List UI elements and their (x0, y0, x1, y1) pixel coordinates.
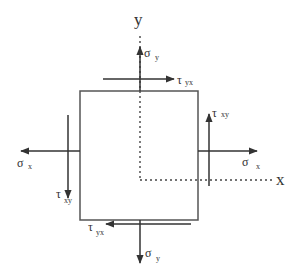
sigma-x-left-symbol: σ (17, 156, 24, 170)
tau-xy-right-symbol: τ (212, 106, 217, 120)
tau-yx-bottom-subscript: yx (96, 228, 104, 237)
sigma-x-right-symbol: σ (242, 155, 249, 169)
sigma-y-bottom-symbol: σ (145, 246, 152, 260)
sigma-y-top-subscript: y (155, 53, 159, 62)
tau-xy-left-symbol: τ (56, 187, 61, 201)
tau-yx-top-symbol: τ (177, 73, 182, 87)
sigma-x-right-subscript: x (256, 162, 260, 171)
stress-element-diagram: y x σ y τ yx σ x τ xy τ xy σ x τ yx σ y (0, 0, 299, 277)
y-axis-label: y (134, 10, 143, 29)
stress-element-square (80, 91, 198, 220)
sigma-x-left-subscript: x (28, 162, 32, 171)
tau-xy-right-subscript: xy (221, 110, 229, 119)
tau-yx-top-subscript: yx (185, 78, 193, 87)
x-axis-label: x (276, 170, 285, 189)
tau-xy-left-subscript: xy (64, 196, 72, 205)
sigma-y-top-symbol: σ (144, 46, 151, 60)
sigma-y-bottom-subscript: y (156, 254, 160, 263)
tau-yx-bottom-symbol: τ (88, 220, 93, 234)
